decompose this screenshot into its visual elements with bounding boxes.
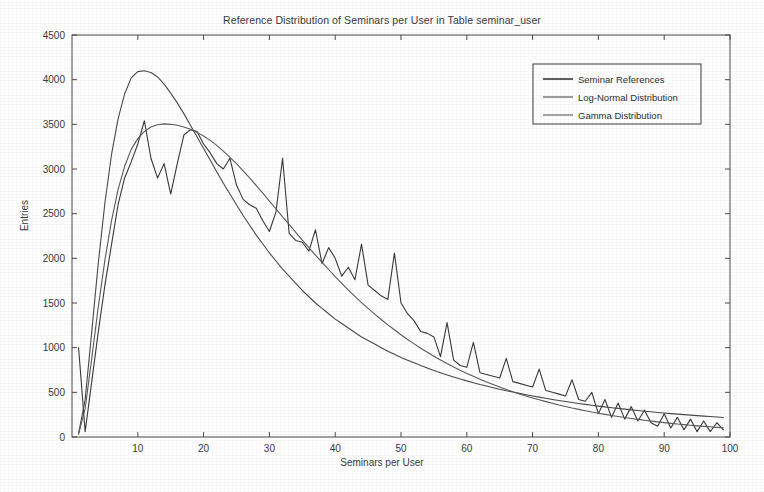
legend-label-3: Gamma Distribution	[578, 110, 662, 121]
x-tick-label: 50	[395, 443, 407, 454]
legend-label-2: Log-Normal Distribution	[578, 92, 678, 103]
y-tick-label: 2000	[43, 253, 66, 264]
x-tick-label: 70	[527, 443, 539, 454]
data-series-group	[79, 71, 724, 435]
y-tick-label: 4500	[43, 30, 66, 41]
x-tick-label: 100	[722, 443, 739, 454]
x-tick-label: 90	[659, 443, 671, 454]
x-tick-label: 80	[593, 443, 605, 454]
legend-label-1: Seminar References	[578, 74, 665, 85]
x-tick-label: 30	[264, 443, 276, 454]
y-tick-label: 0	[59, 432, 65, 443]
y-tick-label: 2500	[43, 208, 66, 219]
y-tick-label: 4000	[43, 74, 66, 85]
y-tick-label: 1500	[43, 298, 66, 309]
y-tick-label: 3000	[43, 164, 66, 175]
x-tick-label: 20	[198, 443, 210, 454]
x-tick-label: 60	[461, 443, 473, 454]
y-tick-label: 500	[48, 387, 65, 398]
y-tick-label: 1000	[43, 342, 66, 353]
chart-figure: Reference Distribution of Seminars per U…	[0, 0, 764, 492]
plot-canvas: 0500100015002000250030003500400045001020…	[0, 0, 764, 492]
x-tick-label: 40	[330, 443, 342, 454]
x-tick-label: 10	[132, 443, 144, 454]
series-line-1	[79, 121, 724, 432]
chart-legend: Seminar ReferencesLog-Normal Distributio…	[533, 64, 701, 124]
y-tick-label: 3500	[43, 119, 66, 130]
